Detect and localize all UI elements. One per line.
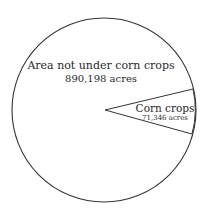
label-not-corn-value: 890,198 acres	[65, 73, 137, 84]
pie-chart: Area not under corn crops 890,198 acres …	[0, 0, 207, 213]
label-not-corn-name: Area not under corn crops	[26, 59, 175, 72]
label-corn-name: Corn crops	[136, 102, 195, 114]
label-corn-value: 71,346 acres	[142, 114, 188, 122]
